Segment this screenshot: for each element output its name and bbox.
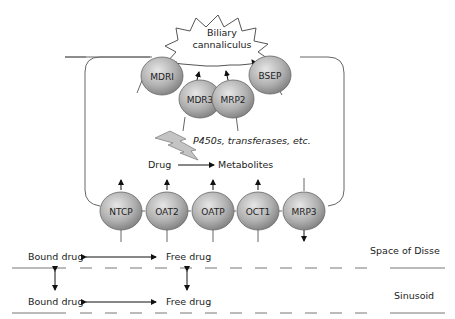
metabolites-label: Metabolites [218, 159, 273, 170]
svg-text:MRP2: MRP2 [220, 95, 245, 105]
svg-text:OAT2: OAT2 [155, 207, 179, 217]
svg-text:OATP: OATP [201, 207, 225, 217]
sinusoid: Bound drug Free drug Sinusoid [12, 290, 445, 313]
sinusoid-label: Sinusoid [394, 290, 434, 301]
canaliculus-label-line2: cannaliculus [192, 39, 251, 50]
transporter-ntcp: NTCP [100, 192, 142, 230]
biliary-canaliculus: Biliary cannaliculus [165, 15, 270, 66]
sinusoid-free-drug-label: Free drug [166, 296, 211, 307]
transporter-bsep: BSEP [249, 56, 291, 94]
svg-text:MRP3: MRP3 [291, 207, 316, 217]
svg-text:BSEP: BSEP [259, 71, 282, 81]
transporter-mrp2: MRP2 [212, 80, 254, 118]
sinusoid-bound-drug-label: Bound drug [28, 296, 83, 307]
transporter-mdr1: MDRI [141, 57, 183, 95]
disse-bound-drug-label: Bound drug [28, 251, 83, 262]
canaliculus-label-line1: Biliary [207, 27, 237, 38]
lightning-icon [155, 131, 198, 160]
hepatocyte-outline [65, 57, 344, 206]
hepatocyte-drug-transport-diagram: Biliary cannaliculus MDRI MDR3 MRP2 BSEP [0, 0, 455, 319]
apical-transporters: MDRI MDR3 MRP2 BSEP [137, 56, 291, 131]
svg-text:MDRI: MDRI [150, 72, 174, 82]
disse-free-drug-label: Free drug [166, 251, 211, 262]
enzymes-label: P450s, transferases, etc. [193, 135, 311, 146]
svg-text:OCT1: OCT1 [246, 207, 271, 217]
metabolism: P450s, transferases, etc. Drug Metabolit… [148, 131, 311, 170]
drug-label: Drug [148, 159, 171, 170]
disse-label: Space of Disse [370, 245, 440, 256]
transporter-mrp3: MRP3 [283, 192, 325, 230]
transporter-oatp: OATP [192, 192, 234, 230]
svg-text:NTCP: NTCP [109, 207, 133, 217]
transporter-oct1: OCT1 [237, 192, 279, 230]
transporter-oat2: OAT2 [146, 192, 188, 230]
basolateral-transporters: NTCP OAT2 OATP OCT1 MRP3 [100, 178, 325, 242]
space-of-disse: Bound drug Free drug Space of Disse [12, 245, 445, 268]
svg-text:MDR3: MDR3 [187, 95, 214, 105]
